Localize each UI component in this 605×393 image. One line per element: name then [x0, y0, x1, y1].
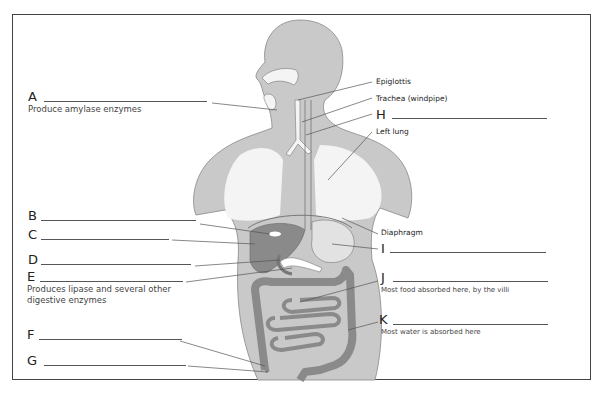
answer-blank-e[interactable]	[40, 281, 183, 282]
label-letter-k: K	[379, 313, 388, 326]
label-letter-b: B	[28, 209, 37, 222]
label-letter-e: E	[27, 270, 35, 283]
label-letter-h: H	[376, 108, 386, 121]
answer-blank-i[interactable]	[390, 252, 546, 253]
answer-blank-f[interactable]	[39, 339, 182, 340]
label-diaphragm: Diaphragm	[381, 229, 423, 237]
label-left-lung: Left lung	[376, 128, 409, 136]
answer-blank-g[interactable]	[44, 365, 186, 366]
label-description-j: Most food absorbed here, by the villi	[381, 286, 509, 294]
answer-blank-j[interactable]	[393, 281, 548, 282]
label-description-k: Most water is absorbed here	[381, 328, 481, 336]
label-letter-f: F	[27, 328, 34, 341]
label-description-a: Produce amylase enzymes	[28, 104, 141, 114]
answer-blank-a[interactable]	[44, 101, 207, 102]
label-description-e: Produces lipase and several other	[27, 284, 171, 294]
answer-blank-h[interactable]	[392, 118, 547, 119]
label-letter-d: D	[28, 253, 38, 266]
label-letter-c: C	[28, 228, 37, 241]
label-epiglottis: Epiglottis	[376, 78, 411, 86]
label-letter-j: J	[381, 271, 385, 284]
answer-blank-b[interactable]	[41, 220, 196, 221]
label-letter-i: I	[381, 242, 385, 255]
label-letter-g: G	[27, 354, 37, 367]
answer-blank-d[interactable]	[41, 264, 191, 265]
label-letter-a: A	[28, 90, 37, 103]
answer-blank-k[interactable]	[393, 324, 548, 325]
digestive-system-figure	[0, 0, 605, 393]
label-trachea: Trachea (windpipe)	[376, 95, 447, 103]
label-description-e-line2: digestive enzymes	[27, 295, 107, 305]
gall-bladder	[269, 232, 281, 237]
answer-blank-c[interactable]	[41, 239, 169, 240]
